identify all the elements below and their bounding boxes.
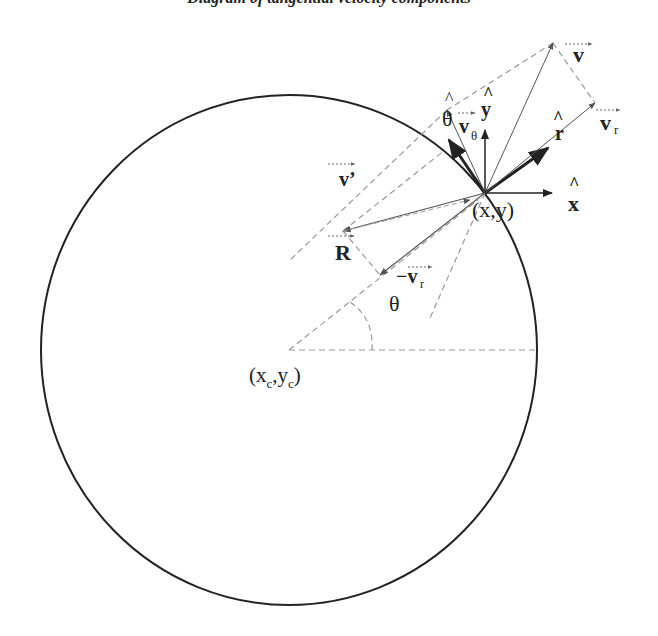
y-hat-label: y xyxy=(481,98,491,121)
v-theta-label: v xyxy=(459,115,469,137)
vectors xyxy=(343,43,595,275)
x-hat-label: x xyxy=(568,191,579,216)
velocity-diagram: ^ θ ^ y v θ v ^ r v r ^ x (x,y) v’ R −v … xyxy=(0,0,658,636)
labels: ^ θ ^ y v θ v ^ r v r ^ x (x,y) v’ R −v … xyxy=(249,42,619,391)
center-point-label: (xc,yc) xyxy=(249,363,301,391)
v-r-sub: r xyxy=(614,122,619,137)
v-theta-sub: θ xyxy=(471,128,477,143)
theta-hat-label: θ xyxy=(442,106,453,131)
theta-hat-vector xyxy=(449,140,485,193)
construction-lines xyxy=(289,43,595,350)
theta-angle-label: θ xyxy=(389,291,400,316)
R-label: R xyxy=(335,240,352,265)
v-prime-label: v’ xyxy=(339,168,356,190)
v-label: v xyxy=(573,42,584,67)
r-hat-label: r xyxy=(555,122,564,144)
r-hat-vector xyxy=(485,148,548,193)
neg-v-r-vector xyxy=(380,193,485,275)
label-arrows xyxy=(328,44,620,267)
neg-v-r-label: −v xyxy=(396,265,417,287)
contact-point-label: (x,y) xyxy=(472,197,514,222)
neg-v-r-sub: r xyxy=(420,277,424,291)
v-r-label: v xyxy=(600,110,611,135)
